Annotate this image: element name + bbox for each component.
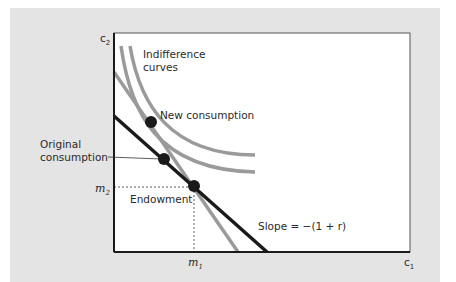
- point-original-consumption: [158, 153, 170, 165]
- label-indifference-2: curves: [143, 61, 178, 73]
- tick-label-m2: m2: [95, 182, 110, 197]
- diagram: c2 c1 m2 m1 Indifference curves New cons…: [0, 0, 456, 282]
- label-original-2: consumption: [40, 151, 108, 163]
- label-slope: Slope = −(1 + r): [258, 220, 346, 232]
- label-original-1: Original: [40, 138, 81, 150]
- label-endowment: Endowment: [130, 193, 192, 205]
- point-endowment: [188, 180, 200, 192]
- x-axis-label: c1: [404, 256, 414, 271]
- y-axis-label: c2: [100, 32, 110, 47]
- tick-label-m1: m1: [188, 256, 203, 271]
- point-new-consumption: [145, 116, 157, 128]
- label-indifference-1: Indifference: [143, 48, 205, 60]
- label-new-consumption: New consumption: [160, 109, 254, 121]
